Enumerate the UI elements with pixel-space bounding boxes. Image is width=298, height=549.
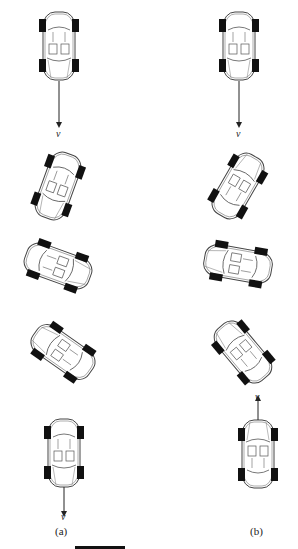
panel-label-a: (a) xyxy=(55,525,68,538)
velocity-label-a-top: v xyxy=(56,128,61,139)
car-a2 xyxy=(28,147,89,225)
velocity-label-b-bottom: v xyxy=(255,391,260,402)
car-b5 xyxy=(238,420,278,488)
velocity-label-a-bottom: v xyxy=(61,511,66,522)
car-maneuver-diagram: v v (a) v v (b) xyxy=(0,0,298,549)
car-a1 xyxy=(39,12,79,80)
car-b3 xyxy=(201,238,275,289)
panel-label-b: (b) xyxy=(250,525,263,538)
car-b2 xyxy=(204,147,273,226)
car-a3 xyxy=(19,236,97,297)
car-b1 xyxy=(219,12,259,80)
car-a5 xyxy=(44,419,84,487)
diagram-canvas: v v (a) v v (b) xyxy=(0,0,298,549)
velocity-label-b-top: v xyxy=(236,128,241,139)
car-b4 xyxy=(206,313,280,391)
car-a4 xyxy=(24,316,103,388)
